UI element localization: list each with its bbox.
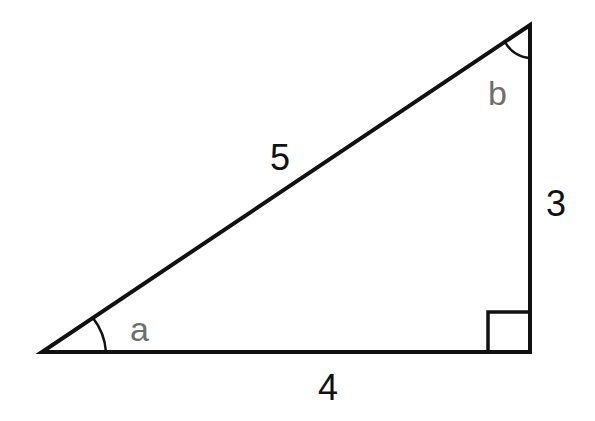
triangle-outline: [42, 25, 530, 352]
right-angle-marker: [488, 312, 530, 352]
angle-b-label: b: [488, 76, 507, 110]
angle-a-label: a: [130, 312, 149, 346]
hypotenuse-label: 5: [270, 140, 290, 176]
angle-b-arc: [505, 42, 530, 58]
base-label: 4: [318, 370, 338, 406]
angle-a-arc: [93, 318, 106, 352]
triangle-drawing: [0, 0, 595, 421]
height-label: 3: [546, 186, 566, 222]
right-triangle-diagram: 5 4 3 a b: [0, 0, 595, 421]
